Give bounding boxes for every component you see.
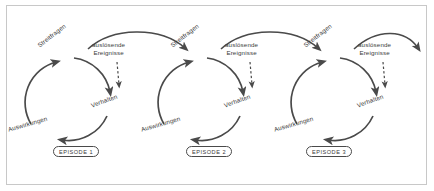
cycle-2-trigger-line1: auslösende [225, 41, 258, 48]
cycle-3-trigger-label: auslösende Ereignisse [358, 41, 391, 58]
figure-canvas: Streitfragen Verhalten Auswirkungen ausl… [0, 0, 434, 191]
cycle-3-arrows [291, 33, 418, 140]
episode-label-2: EPISODE 2 [186, 146, 232, 157]
cycle-1-trigger-label: auslösende Ereignisse [92, 41, 125, 58]
cycle-2-trigger-line2: Ereignisse [226, 49, 256, 56]
episode-label-1: EPISODE 1 [53, 146, 99, 157]
cycle-2-trigger-label: auslösende Ereignisse [225, 41, 258, 58]
cycle-1-trigger-line2: Ereignisse [93, 49, 123, 56]
cycle-3-trigger-line1: auslösende [358, 41, 391, 48]
cycle-1-trigger-line1: auslösende [92, 41, 125, 48]
episode-label-3: EPISODE 3 [306, 146, 352, 157]
cycle-3-trigger-line2: Ereignisse [359, 49, 389, 56]
